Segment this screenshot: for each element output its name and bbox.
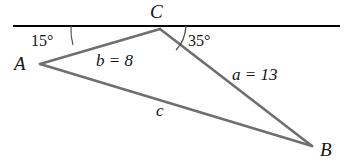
angle-arc-15-icon xyxy=(71,26,73,45)
vertex-label-A: A xyxy=(14,54,26,73)
vertex-label-C: C xyxy=(150,2,163,21)
side-label-c: c xyxy=(156,102,164,119)
figure-canvas xyxy=(0,0,350,162)
side-label-b: b = 8 xyxy=(96,52,133,69)
vertex-label-B: B xyxy=(320,140,332,159)
geometry-figure: A C B b = 8 a = 13 c 15° 35° xyxy=(0,0,350,162)
side-label-a: a = 13 xyxy=(232,66,277,83)
angle-label-15: 15° xyxy=(31,33,53,49)
angle-label-35: 35° xyxy=(188,33,210,49)
side-a-segment xyxy=(160,29,312,146)
